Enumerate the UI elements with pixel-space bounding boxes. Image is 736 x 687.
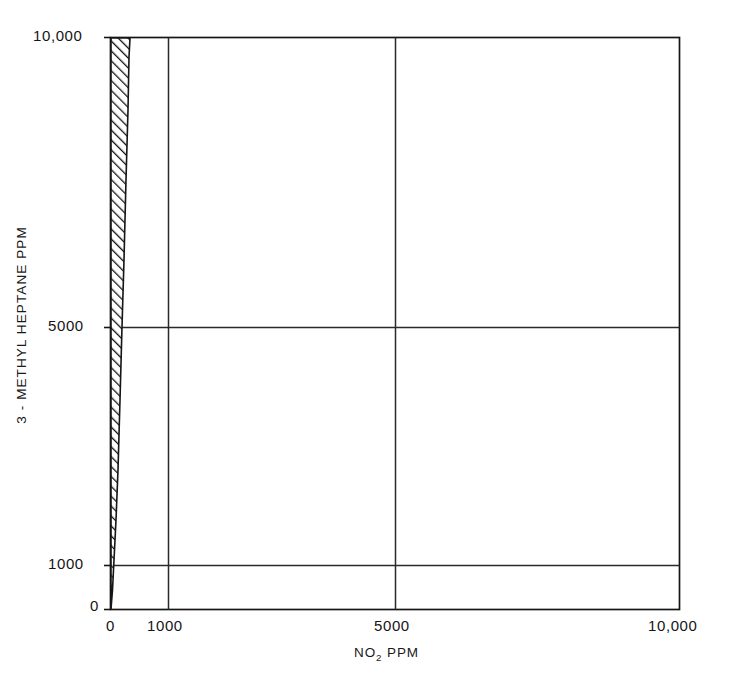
hatched-region (111, 38, 130, 609)
ytick-label-10000: 10,000 (33, 27, 82, 44)
plot-canvas (0, 0, 736, 687)
chart-figure: 10,000 5000 1000 0 0 1000 5000 10,000 NO… (0, 0, 736, 687)
x-axis-title-tail: PPM (382, 645, 419, 660)
xtick-label-0: 0 (106, 617, 115, 634)
y-axis-title: 3 - METHYL HEPTANE PPM (14, 226, 29, 423)
xtick-label-1000: 1000 (147, 617, 183, 634)
ytick-label-0: 0 (90, 597, 99, 614)
xtick-label-5000: 5000 (374, 617, 410, 634)
ytick-label-1000: 1000 (48, 555, 84, 572)
xtick-label-10000: 10,000 (648, 617, 697, 634)
x-axis-title-main: NO (354, 645, 376, 660)
y-axis-title-wrap: 3 - METHYL HEPTANE PPM (6, 155, 36, 495)
x-axis-title: NO2 PPM (354, 645, 419, 663)
ytick-label-5000: 5000 (48, 317, 84, 334)
